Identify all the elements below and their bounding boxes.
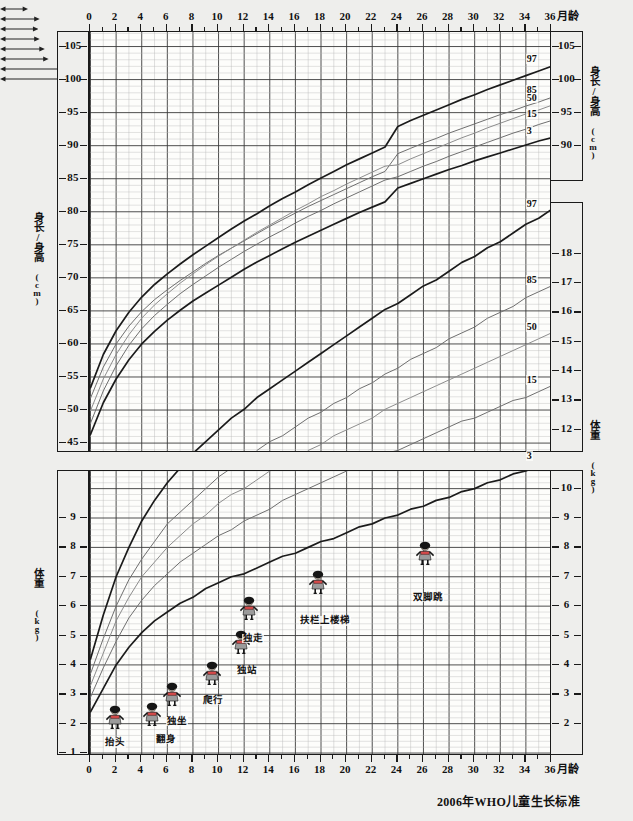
- x-axis-bottom-tick-6: [166, 755, 167, 762]
- x-axis-bottom-tick-7: [179, 755, 180, 759]
- x-axis-bottom-tick-2: [115, 755, 116, 762]
- height-right-tick-95-mark-left: [552, 112, 559, 113]
- weight-right-tick-lower-9-mark-left: [552, 517, 559, 518]
- height-percentile-label-97: 97: [526, 54, 538, 64]
- weight-left-tick-7-mark-right: [80, 576, 87, 577]
- height-left-tick-45-mark-left: [59, 442, 66, 443]
- x-axis-top-tick-14: [268, 24, 269, 31]
- height-left-tick-95-mark-left: [59, 112, 66, 113]
- weight-right-tick-lower-7-mark-right: [574, 576, 581, 577]
- x-axis-bottom-label-4: 4: [137, 764, 143, 775]
- weight-right-tick-16-mark-right: [574, 311, 581, 312]
- height-left-tick-55-mark-left: [59, 376, 66, 377]
- height-left-tick-50-mark-left: [59, 409, 66, 410]
- x-axis-bottom-tick-26: [422, 755, 423, 762]
- height-left-tick-90-mark-right: [80, 145, 87, 146]
- weight-left-tick-2-mark-left: [59, 723, 66, 724]
- x-axis-bottom-label-18: 18: [314, 764, 325, 775]
- height-left-axis-title: 身长/身高: [32, 212, 43, 262]
- height-left-tick-90-mark-left: [59, 145, 66, 146]
- weight-left-tick-5-mark-right: [80, 635, 87, 636]
- weight-right-tick-lower-9-mark-right: [574, 517, 581, 518]
- x-axis-bottom-label-26: 26: [416, 764, 427, 775]
- height-left-tick-85-mark-left: [59, 178, 66, 179]
- x-axis-bottom-tick-16: [294, 755, 295, 762]
- x-axis-top-tick-0: [89, 24, 90, 31]
- x-axis-bottom-label-8: 8: [189, 764, 195, 775]
- weight-left-tick-8-mark-left: [59, 546, 66, 547]
- x-axis-bottom-tick-10: [217, 755, 218, 762]
- height-left-tick-75-mark-left: [59, 244, 66, 245]
- height-right-tick-90-mark-right: [574, 145, 581, 146]
- milestone-label-0: 抬头: [104, 738, 126, 748]
- x-axis-top-label-12: 12: [237, 11, 248, 22]
- milestone-range-0: [0, 0, 28, 10]
- x-axis-bottom-tick-20: [345, 755, 346, 762]
- weight-right-tick-14-mark-right: [574, 370, 581, 371]
- x-axis-bottom-tick-30: [473, 755, 474, 762]
- weight-right-tick-lower-2-mark-right: [574, 723, 581, 724]
- weight-right-tick-18-mark-right: [574, 253, 581, 254]
- milestone-figure-3: [201, 661, 223, 685]
- height-right-tick-100-mark-right: [574, 79, 581, 80]
- x-axis-top-tick-2: [115, 24, 116, 31]
- height-left-tick-80-mark-right: [80, 211, 87, 212]
- x-axis-top-tick-28: [448, 24, 449, 31]
- milestone-label-2: 独坐: [166, 717, 188, 727]
- x-axis-bottom-tick-3: [127, 755, 128, 759]
- x-axis-bottom-tick-9: [204, 755, 205, 759]
- x-axis-bottom-tick-34: [524, 755, 525, 762]
- x-axis-top-label-16: 16: [288, 11, 299, 22]
- weight-right-tick-lower-3-mark-left: [552, 693, 559, 694]
- milestone-range-5: [0, 50, 49, 60]
- x-axis-bottom-tick-4: [140, 755, 141, 762]
- x-axis-bottom-tick-25: [409, 755, 410, 759]
- weight-right-tick-12-mark-left: [552, 429, 559, 430]
- height-right-tick-105-mark-left: [552, 46, 559, 47]
- weight-right-tick-15-mark-left: [552, 341, 559, 342]
- x-axis-top-label-14: 14: [263, 11, 274, 22]
- height-left-tick-75-mark-right: [80, 244, 87, 245]
- x-axis-bottom-label-24: 24: [391, 764, 402, 775]
- height-left-tick-60-mark-right: [80, 343, 87, 344]
- height-left-tick-95-mark-right: [80, 112, 87, 113]
- x-axis-top-tick-6: [166, 24, 167, 31]
- x-axis-top-tick-12: [243, 24, 244, 31]
- x-axis-bottom-label-0: 0: [86, 764, 92, 775]
- weight-left-tick-4-mark-left: [59, 664, 66, 665]
- x-axis-bottom-label-32: 32: [493, 764, 504, 775]
- weight-right-tick-18-mark-left: [552, 253, 559, 254]
- milestone-figure-0: [104, 705, 126, 729]
- x-axis-top-tick-10: [217, 24, 218, 31]
- weight-left-tick-2-mark-right: [80, 723, 87, 724]
- weight-left-axis-unit: (kg): [32, 608, 42, 640]
- x-axis-top-label-22: 22: [365, 11, 376, 22]
- weight-percentile-label-85: 85: [526, 275, 538, 285]
- weight-left-tick-6-mark-right: [80, 605, 87, 606]
- x-axis-bottom-tick-27: [435, 755, 436, 759]
- weight-left-tick-4-mark-right: [80, 664, 87, 665]
- milestone-label-4: 独站: [236, 666, 258, 676]
- x-axis-bottom-tick-13: [255, 755, 256, 759]
- height-right-tick-95-mark-right: [574, 112, 581, 113]
- milestone-figure-5: [238, 596, 260, 620]
- x-axis-top-label-4: 4: [137, 11, 143, 22]
- weight-right-tick-lower-2-mark-left: [552, 723, 559, 724]
- height-left-tick-70-mark-right: [80, 277, 87, 278]
- weight-left-tick-7-mark-left: [59, 576, 66, 577]
- x-axis-bottom-label-14: 14: [263, 764, 274, 775]
- weight-percentile-label-97: 97: [526, 199, 538, 209]
- weight-right-tick-lower-7-mark-left: [552, 576, 559, 577]
- x-axis-top-label-30: 30: [468, 11, 479, 22]
- x-axis-top-label-0: 0: [86, 11, 92, 22]
- height-right-axis-unit: (cm): [588, 126, 598, 158]
- x-axis-top-tick-24: [396, 24, 397, 31]
- x-axis-top-tick-30: [473, 24, 474, 31]
- x-axis-bottom-tick-28: [448, 755, 449, 762]
- weight-right-tick-14-mark-left: [552, 370, 559, 371]
- x-axis-top-label-34: 34: [519, 11, 530, 22]
- milestone-figure-6: [307, 570, 329, 594]
- x-axis-bottom-label-30: 30: [468, 764, 479, 775]
- x-axis-top-label-6: 6: [163, 11, 169, 22]
- x-axis-bottom-tick-14: [268, 755, 269, 762]
